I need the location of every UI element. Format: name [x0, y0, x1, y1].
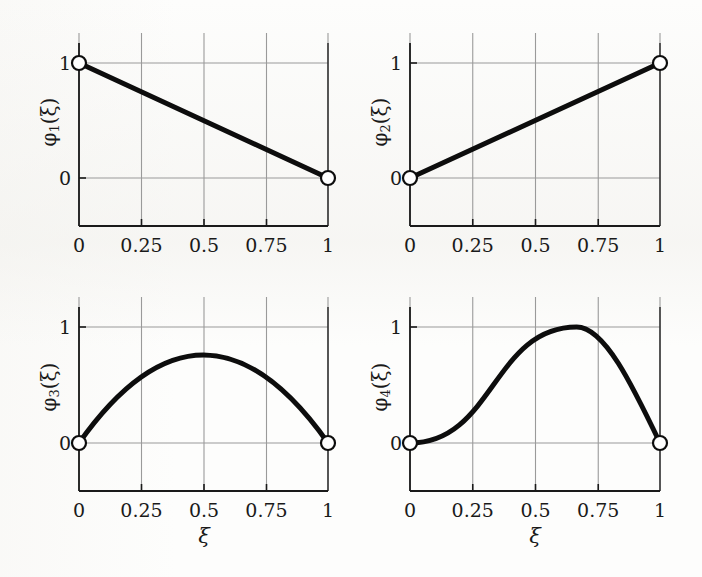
- ylabel-subscript: 1: [47, 124, 62, 132]
- x-tick-label: 0.5: [511, 236, 561, 255]
- x-tick-label: 0.25: [448, 236, 498, 255]
- figure-shape-functions: φ1(ξ) 1 0 0 0.25 0.5 0.75 1: [0, 0, 702, 577]
- y-tick-label: 1: [45, 318, 71, 337]
- gridlines-phi4: [410, 297, 660, 491]
- endpoint-marker: [321, 171, 335, 185]
- x-tick-label: 0: [54, 236, 104, 255]
- x-tick-label: 1: [635, 236, 685, 255]
- endpoint-marker: [653, 56, 667, 70]
- endpoint-marker: [403, 436, 417, 450]
- plot-phi2: [410, 33, 661, 228]
- x-tick-label: 1: [303, 236, 353, 255]
- y-tick-label: 0: [376, 434, 402, 453]
- x-tick-label: 0.25: [448, 501, 498, 520]
- ylabel-subscript: 3: [47, 389, 62, 397]
- x-tick-label: 0.25: [117, 236, 167, 255]
- gridlines-phi3: [79, 297, 328, 491]
- x-tick-label: 0.75: [573, 236, 623, 255]
- y-axis-label-phi3: φ3(ξ): [39, 332, 61, 442]
- endpoint-marker: [321, 436, 335, 450]
- x-tick-label: 0: [385, 501, 435, 520]
- x-tick-label: 0.5: [179, 236, 229, 255]
- gridlines-phi2: [410, 33, 660, 226]
- endpoint-marker: [653, 436, 667, 450]
- plot-phi4: [410, 297, 661, 493]
- x-tick-label: 0.75: [573, 501, 623, 520]
- y-axis-label-phi1: φ1(ξ): [39, 67, 61, 177]
- ylabel-base: φ: [37, 133, 61, 147]
- x-tick-label: 0.75: [242, 501, 292, 520]
- x-tick-label: 0.5: [179, 501, 229, 520]
- ylabel-argument: (ξ): [37, 98, 61, 125]
- x-tick-label: 0: [385, 236, 435, 255]
- y-tick-label: 0: [376, 169, 402, 188]
- plot-phi1: [79, 33, 329, 228]
- x-tick-label: 1: [635, 501, 685, 520]
- y-tick-label: 1: [376, 318, 402, 337]
- x-axis-label-phi4: ξ: [505, 526, 565, 547]
- ylabel-argument: (ξ): [368, 363, 392, 390]
- y-tick-label: 1: [45, 54, 71, 73]
- ylabel-subscript: 2: [378, 124, 393, 132]
- endpoint-marker: [72, 56, 86, 70]
- ylabel-base: φ: [368, 133, 392, 147]
- endpoint-marker: [72, 436, 86, 450]
- panel-phi3: φ3(ξ) 1 0 0 0.25 0.5 0.75 1 ξ: [79, 297, 329, 493]
- ylabel-base: φ: [368, 398, 392, 412]
- x-tick-label: 0: [54, 501, 104, 520]
- x-axis-label-phi3: ξ: [174, 526, 234, 547]
- plot-phi3: [79, 297, 329, 493]
- y-tick-label: 0: [45, 169, 71, 188]
- y-tick-label: 0: [45, 434, 71, 453]
- panel-phi2: φ2(ξ) 1 0 0 0.25 0.5 0.75 1: [410, 33, 661, 228]
- panel-phi4: φ4(ξ) 1 0 0 0.25 0.5 0.75 1 ξ: [410, 297, 661, 493]
- endpoint-marker: [403, 171, 417, 185]
- x-tick-label: 0.75: [242, 236, 292, 255]
- ylabel-argument: (ξ): [37, 363, 61, 390]
- y-axis-label-phi2: φ2(ξ): [370, 67, 392, 177]
- y-axis-label-phi4: φ4(ξ): [370, 332, 392, 442]
- ylabel-subscript: 4: [378, 389, 393, 397]
- y-tick-label: 1: [376, 54, 402, 73]
- ylabel-base: φ: [37, 398, 61, 412]
- x-tick-label: 1: [303, 501, 353, 520]
- gridlines-phi1: [79, 33, 328, 226]
- panel-phi1: φ1(ξ) 1 0 0 0.25 0.5 0.75 1: [79, 33, 329, 228]
- ylabel-argument: (ξ): [368, 98, 392, 125]
- x-tick-label: 0.5: [511, 501, 561, 520]
- x-tick-label: 0.25: [117, 501, 167, 520]
